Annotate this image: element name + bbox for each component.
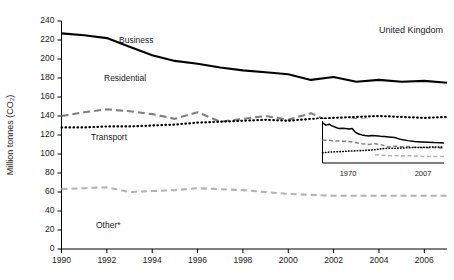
series-label-transport: Transport xyxy=(91,132,128,142)
x-tick-label: 2002 xyxy=(324,255,343,265)
x-axis-ticks: 199019921994199619982000200220042006 xyxy=(52,249,434,265)
y-axis-ticks: 020406080100120140160180200220240 xyxy=(40,15,61,253)
y-tick-label: 20 xyxy=(45,224,55,234)
series-label-residential: Residential xyxy=(104,73,146,83)
x-tick-label: 2004 xyxy=(370,255,389,265)
x-tick-label: 1998 xyxy=(233,255,252,265)
series-label-other: Other* xyxy=(96,220,121,230)
x-tick-label: 1996 xyxy=(188,255,207,265)
inset-x-tick-2007: 2007 xyxy=(415,169,432,178)
y-tick-label: 220 xyxy=(40,34,54,44)
inset-chart: 1970 2007 xyxy=(317,119,445,178)
x-tick-label: 1990 xyxy=(52,255,71,265)
y-tick-label: 100 xyxy=(40,148,54,158)
y-tick-label: 0 xyxy=(50,243,55,253)
y-tick-label: 200 xyxy=(40,53,54,63)
y-tick-label: 240 xyxy=(40,15,54,25)
region-annotation: United Kingdom xyxy=(379,25,443,35)
x-tick-label: 1992 xyxy=(97,255,116,265)
y-tick-label: 80 xyxy=(45,167,55,177)
y-axis-title: Million tonnes (CO₂) xyxy=(5,95,15,176)
x-tick-label: 2006 xyxy=(415,255,434,265)
x-tick-label: 2000 xyxy=(279,255,298,265)
y-tick-label: 40 xyxy=(45,205,55,215)
co2-emissions-line-chart: 020406080100120140160180200220240 199019… xyxy=(0,0,454,280)
series-lines-group xyxy=(62,33,448,195)
y-tick-label: 140 xyxy=(40,110,54,120)
y-tick-label: 180 xyxy=(40,72,54,82)
y-tick-label: 120 xyxy=(40,129,54,139)
inset-x-tick-1970: 1970 xyxy=(340,169,357,178)
y-tick-label: 60 xyxy=(45,186,55,196)
chart-canvas: 020406080100120140160180200220240 199019… xyxy=(0,0,454,280)
series-line-other xyxy=(62,187,448,196)
y-tick-label: 160 xyxy=(40,91,54,101)
series-label-business: Business xyxy=(119,35,154,45)
x-tick-label: 1994 xyxy=(143,255,162,265)
